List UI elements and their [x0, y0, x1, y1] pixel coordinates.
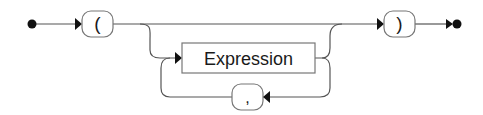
- terminal-close-paren: ): [384, 11, 415, 37]
- end-node-icon: [453, 20, 462, 29]
- close-paren-label: ): [396, 13, 402, 34]
- railroad-diagram: ( Expression , ): [0, 0, 483, 115]
- nonterminal-expression: Expression: [182, 43, 315, 73]
- branch-into-expression: [140, 24, 176, 58]
- arrow-right-icon: [75, 18, 82, 30]
- arrow-right-icon: [446, 19, 453, 29]
- arrow-right-icon: [377, 18, 384, 30]
- arrow-left-icon: [263, 91, 270, 103]
- branch-out-of-expression: [315, 24, 342, 58]
- expression-label: Expression: [204, 49, 293, 69]
- terminal-comma: ,: [232, 84, 263, 110]
- terminal-open-paren: (: [82, 11, 113, 37]
- open-paren-label: (: [94, 13, 101, 34]
- comma-label: ,: [245, 89, 249, 106]
- start-node-icon: [28, 20, 37, 29]
- arrow-right-icon: [175, 52, 182, 64]
